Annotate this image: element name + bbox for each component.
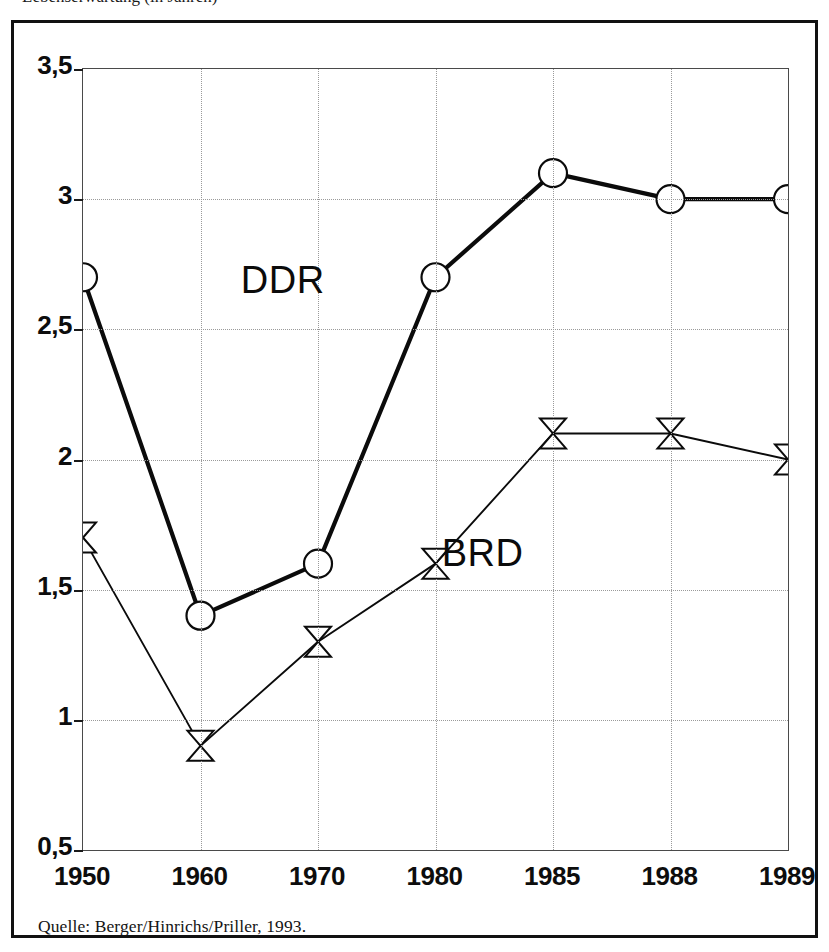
x-axis-tick-label: 1985 [524, 861, 580, 892]
clipped-top-caption-text: Lebenserwartung (in Jahren) [22, 0, 217, 7]
data-point-marker-ddr [83, 263, 97, 291]
y-axis-tick-mark [74, 850, 83, 852]
y-axis-tick-mark [74, 590, 83, 592]
vertical-gridline [671, 69, 672, 850]
series-annotation-ddr: DDR [241, 258, 325, 301]
y-axis-tick-label: 1,5 [37, 571, 72, 602]
y-axis-tick-mark [74, 199, 83, 201]
y-axis-tick-label: 3,5 [37, 50, 72, 81]
y-axis-tick-label: 2,5 [37, 310, 72, 341]
vertical-gridline [201, 69, 202, 850]
x-axis-tick-label: 1980 [407, 861, 463, 892]
vertical-gridline [318, 69, 319, 850]
x-axis-tick-label: 1960 [172, 861, 228, 892]
figure-frame: 3,532,521,510,5 DDRBRD 19501960197019801… [11, 20, 818, 938]
plot-area: DDRBRD [82, 68, 789, 851]
y-axis-tick-mark [74, 720, 83, 722]
y-axis-tick-mark [74, 69, 83, 71]
y-axis-tick-mark [74, 329, 83, 331]
x-axis-tick-label: 1989 [759, 861, 815, 892]
source-note: Quelle: Berger/Hinrichs/Priller, 1993. [38, 916, 306, 937]
data-point-marker-brd [83, 523, 96, 553]
series-annotation-brd: BRD [442, 532, 524, 575]
x-axis-tick-label: 1988 [642, 861, 698, 892]
y-axis-tick-label: 2 [58, 441, 72, 472]
vertical-gridline [436, 69, 437, 850]
y-axis-tick-label: 3 [58, 180, 72, 211]
x-axis-tick-labels: 1950196019701980198519881989 [82, 861, 789, 897]
y-axis-tick-labels: 3,532,521,510,5 [14, 68, 72, 851]
x-axis-tick-label: 1970 [289, 861, 345, 892]
y-axis-tick-label: 0,5 [37, 831, 72, 862]
clipped-top-caption: Lebenserwartung (in Jahren) [0, 0, 829, 13]
vertical-gridline [553, 69, 554, 850]
y-axis-tick-label: 1 [58, 701, 72, 732]
y-axis-tick-mark [74, 460, 83, 462]
x-axis-tick-label: 1950 [54, 861, 110, 892]
